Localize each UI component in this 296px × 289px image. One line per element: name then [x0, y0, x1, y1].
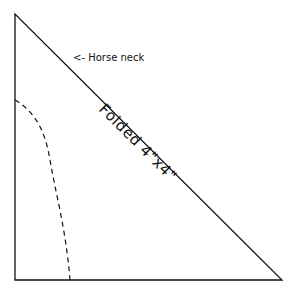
- horse-neck-label: <- Horse neck: [73, 52, 144, 63]
- cut-line-dashed: [15, 100, 70, 280]
